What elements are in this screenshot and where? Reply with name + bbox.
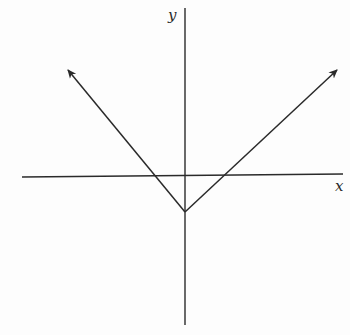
x-axis-label: x — [335, 177, 344, 195]
right-ray-arrow — [185, 70, 337, 212]
x-axis — [22, 174, 343, 177]
y-axis-label: y — [167, 6, 177, 24]
coordinate-graph: y x — [0, 0, 350, 335]
left-ray-arrow — [68, 70, 185, 212]
